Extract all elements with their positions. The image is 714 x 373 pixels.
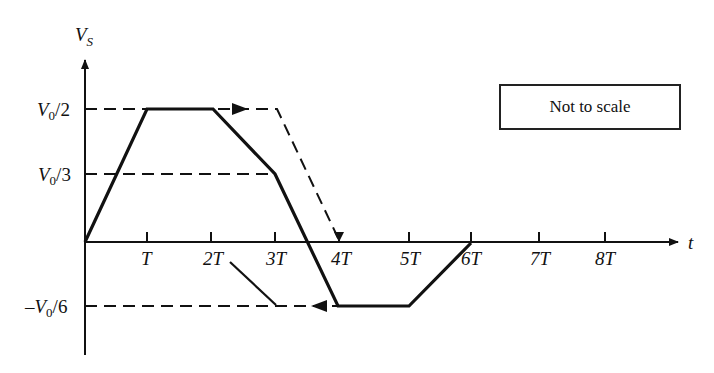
svg-text:7T: 7T [530, 248, 552, 269]
y-level-label-half: V0/2 [37, 99, 70, 123]
svg-text:T: T [141, 248, 153, 269]
down-arrow-icon [334, 232, 344, 242]
solid-waveform [85, 109, 471, 306]
svg-text:6T: 6T [461, 248, 483, 269]
dashed-reference-lines [85, 109, 339, 306]
y-axis-label: VS [75, 24, 94, 49]
svg-text:V0/3: V0/3 [38, 164, 71, 188]
right-arrow-icon [232, 103, 248, 115]
svg-text:3T: 3T [265, 248, 288, 269]
x-axis-ticks [147, 232, 605, 242]
left-arrow-icon [311, 300, 327, 312]
svg-text:t: t [688, 232, 694, 253]
waveform-diagram: VS t V0/2 V0/3 –V0/6 T 2T 3T 4T 5T 6T 7T… [0, 0, 714, 373]
svg-text:4T: 4T [331, 248, 353, 269]
svg-text:VS: VS [75, 24, 94, 49]
x-axis-label: t [688, 232, 694, 253]
svg-text:–V0/6: –V0/6 [24, 296, 67, 320]
x-tick-labels: T 2T 3T 4T 5T 6T 7T 8T [141, 248, 617, 269]
svg-text:V0/2: V0/2 [37, 99, 70, 123]
y-level-label-neg-sixth: –V0/6 [24, 296, 67, 320]
note-text: Not to scale [549, 97, 630, 117]
svg-text:2T: 2T [203, 248, 225, 269]
svg-text:5T: 5T [400, 248, 422, 269]
svg-text:8T: 8T [595, 248, 617, 269]
not-to-scale-note: Not to scale [499, 84, 681, 130]
y-level-label-third: V0/3 [38, 164, 71, 188]
